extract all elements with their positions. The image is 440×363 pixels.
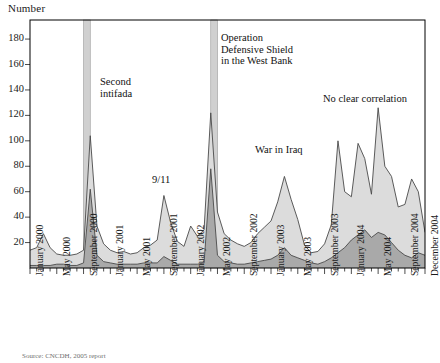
- y-tick-label-80: 80: [0, 159, 24, 170]
- y-tick-label-100: 100: [0, 134, 24, 145]
- x-tick-label-13: May 2004: [382, 237, 393, 276]
- annotation-no-clear-correlation: No clear correlation: [323, 93, 407, 105]
- x-tick-label-4: May 2001: [141, 237, 152, 276]
- x-tick-label-3: January 2001: [114, 225, 125, 276]
- x-tick-label-2: September 2000: [88, 213, 99, 276]
- annotation-war-in-iraq: War in Iraq: [255, 144, 303, 156]
- x-tick-label-10: May 2003: [302, 237, 313, 276]
- y-tick-label-40: 40: [0, 210, 24, 221]
- y-tick-label-160: 160: [0, 58, 24, 69]
- y-tick-label-20: 20: [0, 236, 24, 247]
- x-tick-label-9: January 2003: [275, 225, 286, 276]
- x-tick-label-11: September 2003: [329, 213, 340, 276]
- y-tick-label-140: 140: [0, 83, 24, 94]
- x-tick-label-6: January 2002: [195, 225, 206, 276]
- x-tick-label-1: May 2000: [61, 237, 72, 276]
- source-note: Source: CNCDH, 2005 report: [22, 352, 106, 360]
- y-tick-label-120: 120: [0, 108, 24, 119]
- annotation-operation-defensive-shield: Operation Defensive Shield in the West B…: [221, 32, 293, 67]
- x-tick-label-15: December 2004: [429, 215, 440, 276]
- x-tick-label-8: September 2002: [248, 213, 259, 276]
- x-tick-label-0: January 2000: [34, 225, 45, 276]
- x-tick-label-14: September 2004: [409, 213, 420, 276]
- x-tick-label-7: May 2002: [221, 237, 232, 276]
- annotation-second-intifada: Second intifada: [100, 76, 132, 99]
- x-tick-label-5: September 2001: [168, 213, 179, 276]
- y-tick-label-60: 60: [0, 185, 24, 196]
- annotation-nine-eleven: 9/11: [152, 174, 170, 186]
- x-tick-label-12: January 2004: [355, 225, 366, 276]
- y-tick-label-180: 180: [0, 32, 24, 43]
